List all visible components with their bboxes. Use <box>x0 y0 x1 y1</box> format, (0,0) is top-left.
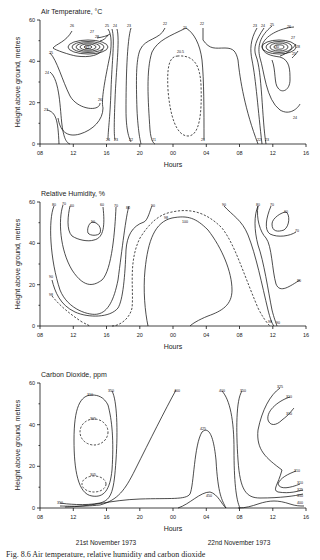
svg-text:22: 22 <box>200 22 204 26</box>
svg-text:25: 25 <box>292 52 296 56</box>
svg-text:12: 12 <box>270 514 276 520</box>
x-axis-label: Hours <box>164 161 183 168</box>
y-ticks: 0 20 40 60 <box>29 199 40 329</box>
figure-caption: Fig. 8.6 Air temperature, relative humid… <box>6 550 206 559</box>
svg-text:90: 90 <box>49 275 53 279</box>
svg-text:23: 23 <box>253 24 257 28</box>
contours <box>51 205 300 326</box>
svg-text:00: 00 <box>170 332 176 338</box>
svg-text:04: 04 <box>203 332 209 338</box>
panel-title: Carbon Dioxide, ppm <box>41 371 107 379</box>
svg-text:16: 16 <box>103 514 109 520</box>
svg-text:23: 23 <box>114 138 118 142</box>
svg-text:04: 04 <box>203 514 209 520</box>
panel-carbon-dioxide: Carbon Dioxide, ppm Height above ground,… <box>14 371 309 546</box>
svg-text:325: 325 <box>277 385 283 389</box>
svg-text:90: 90 <box>276 321 280 325</box>
panel-title: Relative Humidity, % <box>41 190 105 198</box>
svg-text:310: 310 <box>286 395 292 399</box>
contours <box>60 388 304 508</box>
svg-text:25: 25 <box>105 24 109 28</box>
svg-text:60: 60 <box>70 204 74 208</box>
svg-text:60: 60 <box>29 17 35 23</box>
x-ticks: 08 12 16 20 00 04 08 12 16 <box>37 508 309 520</box>
svg-text:80: 80 <box>52 203 56 207</box>
svg-text:20: 20 <box>29 463 35 469</box>
date-day1: 21st November 1973 <box>76 539 137 546</box>
svg-text:60: 60 <box>100 203 104 207</box>
svg-text:12: 12 <box>70 150 76 156</box>
figure: Air Temperature, °C Height above ground,… <box>0 0 320 560</box>
svg-text:25: 25 <box>270 23 274 27</box>
svg-text:40: 40 <box>29 58 35 64</box>
x-ticks: 08 12 16 20 00 04 08 12 16 <box>37 326 309 338</box>
svg-text:20.5: 20.5 <box>177 50 184 54</box>
svg-text:23: 23 <box>44 108 48 112</box>
contours <box>47 26 300 144</box>
svg-text:98: 98 <box>49 293 53 297</box>
svg-text:24: 24 <box>293 116 297 120</box>
svg-text:60: 60 <box>29 199 35 205</box>
svg-text:23: 23 <box>265 138 269 142</box>
panel-title: Air Temperature, °C <box>41 8 102 16</box>
svg-text:08: 08 <box>37 150 43 156</box>
svg-text:08: 08 <box>236 332 242 338</box>
svg-text:100: 100 <box>182 220 188 224</box>
svg-text:21: 21 <box>183 26 187 30</box>
svg-text:310: 310 <box>87 393 93 397</box>
svg-text:24: 24 <box>261 24 265 28</box>
y-axis-label: Height above ground, metres <box>14 399 22 490</box>
svg-text:24: 24 <box>45 71 49 75</box>
svg-text:350: 350 <box>297 494 303 498</box>
svg-text:325: 325 <box>297 488 303 492</box>
axes <box>40 383 306 508</box>
svg-text:310: 310 <box>297 481 303 485</box>
svg-text:50: 50 <box>91 220 95 224</box>
svg-text:28: 28 <box>296 45 300 49</box>
svg-text:400: 400 <box>174 389 180 393</box>
svg-text:305: 305 <box>90 417 96 421</box>
svg-text:20: 20 <box>29 282 35 288</box>
svg-text:16: 16 <box>303 150 309 156</box>
svg-text:0: 0 <box>32 505 35 511</box>
svg-text:28: 28 <box>95 35 99 39</box>
panel-relative-humidity: Relative Humidity, % Height above ground… <box>14 190 309 350</box>
svg-text:21: 21 <box>152 138 156 142</box>
svg-text:40: 40 <box>29 422 35 428</box>
svg-text:400: 400 <box>297 501 303 505</box>
x-axis-label: Hours <box>164 525 183 532</box>
svg-text:80: 80 <box>297 279 301 283</box>
svg-text:16: 16 <box>303 514 309 520</box>
svg-text:25: 25 <box>49 51 53 55</box>
svg-text:24: 24 <box>113 24 117 28</box>
svg-text:40: 40 <box>29 240 35 246</box>
svg-text:425: 425 <box>200 427 206 431</box>
svg-text:20: 20 <box>137 514 143 520</box>
svg-text:0: 0 <box>32 323 35 329</box>
svg-text:98: 98 <box>164 216 168 220</box>
svg-text:350: 350 <box>240 389 246 393</box>
svg-text:20: 20 <box>137 150 143 156</box>
svg-text:22: 22 <box>257 138 261 142</box>
svg-text:20: 20 <box>137 332 143 338</box>
svg-text:27: 27 <box>90 30 94 34</box>
svg-text:24: 24 <box>106 138 110 142</box>
svg-text:12: 12 <box>70 514 76 520</box>
svg-text:22: 22 <box>129 138 133 142</box>
svg-text:00: 00 <box>170 150 176 156</box>
y-ticks: 0 20 40 60 <box>29 380 40 511</box>
svg-text:16: 16 <box>103 332 109 338</box>
svg-text:305: 305 <box>90 473 96 477</box>
svg-text:26: 26 <box>70 24 74 28</box>
svg-text:08: 08 <box>236 150 242 156</box>
svg-text:400: 400 <box>219 389 225 393</box>
x-ticks: 08 12 16 20 00 04 08 12 16 <box>37 144 309 156</box>
svg-text:450: 450 <box>206 494 212 498</box>
svg-text:21: 21 <box>201 138 205 142</box>
svg-text:70: 70 <box>270 203 274 207</box>
svg-text:27: 27 <box>291 36 295 40</box>
svg-text:26: 26 <box>98 98 102 102</box>
svg-text:08: 08 <box>37 514 43 520</box>
svg-text:350: 350 <box>57 501 63 505</box>
x-axis-label: Hours <box>164 343 183 350</box>
